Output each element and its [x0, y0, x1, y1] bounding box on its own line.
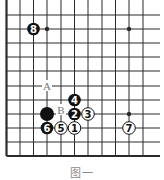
stone-number: 3 [85, 109, 92, 120]
stone-number: 6 [44, 123, 51, 134]
star-point [127, 112, 131, 116]
marker-a: A [43, 80, 51, 92]
star-point [45, 27, 49, 31]
stone-number: 7 [126, 123, 133, 134]
marker-b: B [57, 104, 64, 116]
stone-number: 2 [71, 109, 78, 120]
figure-caption: 图一 [0, 164, 164, 180]
black-stone [40, 107, 54, 121]
stone-number: 5 [58, 123, 65, 134]
stone-number: 8 [30, 24, 37, 35]
stone-number: 4 [71, 95, 78, 106]
go-board: AB 82346517 [0, 0, 164, 160]
star-point [127, 27, 131, 31]
stone-number: 1 [71, 123, 78, 134]
stones: 82346517 [27, 23, 135, 135]
